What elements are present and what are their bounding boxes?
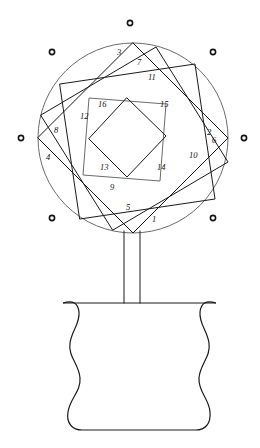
dot-right-icon [241,135,246,140]
label-15: 15 [160,99,169,109]
label-11: 11 [148,72,156,82]
label-3: 3 [116,47,121,57]
dot-top-icon [127,20,132,25]
label-9: 9 [110,182,115,192]
square-2 [41,47,228,230]
square-inner-4 [83,98,166,181]
label-4: 4 [46,152,51,162]
label-7: 7 [137,57,142,67]
label-16: 16 [98,99,107,109]
dot-bottom-right-icon [210,215,215,220]
label-14: 14 [157,162,166,172]
vase-outline [63,302,216,430]
dot-left-icon [18,135,23,140]
label-12: 12 [80,111,89,121]
dot-bottom-left-icon [49,215,54,220]
dot-top-right-icon [210,49,215,54]
label-1: 1 [152,214,156,224]
outer-circle [38,43,228,233]
square-outer-1 [38,43,228,233]
label-13: 13 [100,162,109,172]
botanical-geometry-figure: 1 2 3 4 5 6 7 8 9 10 11 12 13 14 15 16 [0,0,260,448]
square-3 [60,64,215,219]
label-5: 5 [126,202,130,212]
label-8: 8 [54,125,59,135]
dot-top-left-icon [49,49,54,54]
label-10: 10 [189,150,198,160]
